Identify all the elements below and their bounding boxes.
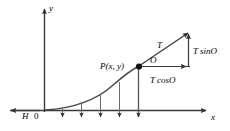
vertical-component-label: T sinO — [193, 47, 217, 56]
angle-label: O — [150, 56, 157, 65]
catenary-force-diagram: y x 0 H P(x, y) T O T sinO T cosO — [0, 0, 230, 131]
catenary-curve — [45, 66, 139, 110]
vertical-component-vector — [184, 34, 190, 67]
point-p-marker — [136, 63, 142, 69]
horizontal-tension-label: H — [22, 112, 29, 121]
tension-label: T — [157, 41, 162, 50]
y-axis-label: y — [49, 4, 53, 13]
vertical-component-angle: O — [211, 46, 218, 56]
horizontal-component-magnitude: T cos — [150, 75, 169, 85]
vertical-component-magnitude: T sin — [193, 46, 211, 56]
origin-label: 0 — [34, 112, 39, 121]
x-axis-label: x — [211, 113, 215, 122]
point-p-label: P(x, y) — [100, 62, 124, 71]
horizontal-component-label: T cosO — [150, 76, 176, 85]
horizontal-component-angle: O — [169, 75, 176, 85]
distributed-load-arrows — [63, 68, 139, 117]
tension-vector — [139, 33, 188, 66]
